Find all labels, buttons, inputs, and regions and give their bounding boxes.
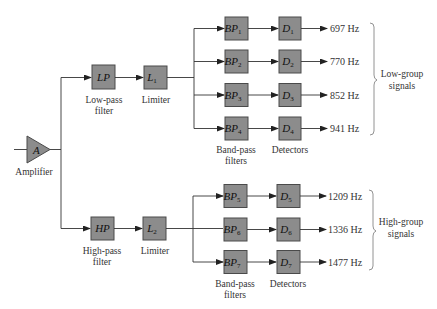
limiter-1-label: Limiter [142,95,171,105]
low-pass-symbol: LP [96,71,110,83]
low-group-label: Low-group [381,69,424,79]
low-group-label-2: signals [389,81,416,91]
detectors-label-low: Detectors [272,145,309,155]
freq-697: 697 Hz [330,23,360,34]
channel-7: BP7 D7 1477 Hz [193,251,363,274]
bandpass-label-high: Band-pass [215,279,255,289]
amplifier-label: Amplifier [15,167,53,177]
channel-6: BP6 D6 1336 Hz [224,218,363,241]
low-pass-label: Low-pass [86,95,123,105]
channel-4: BP4 D4 941 Hz [194,117,360,140]
bandpass-label-low-2: filters [225,156,247,166]
amplifier-block: A Amplifier [14,78,61,229]
high-pass-label: High-pass [83,246,122,256]
freq-770: 770 Hz [330,56,360,67]
freq-1209: 1209 Hz [328,191,363,202]
channel-1: BP1 D1 697 Hz [194,17,360,40]
bandpass-label-high-2: filters [224,290,246,300]
amplifier-symbol: A [32,144,40,156]
detectors-label-high: Detectors [270,279,307,289]
high-pass-label-2: filter [93,257,112,267]
freq-1336: 1336 Hz [328,224,363,235]
channel-5: BP5 D5 1209 Hz [193,185,363,208]
low-group-brace-icon [370,23,377,135]
bandpass-label-low: Band-pass [216,145,256,155]
channel-3: BP3 D3 852 Hz [194,84,360,107]
freq-941: 941 Hz [330,123,360,134]
high-group-label: High-group [379,217,424,227]
high-group-label-2: signals [388,229,415,239]
high-path: HP High-pass filter L2 Limiter BP5 D5 12… [61,185,423,301]
high-group-brace-icon [369,190,376,270]
freq-1477: 1477 Hz [328,257,363,268]
high-pass-symbol: HP [94,222,110,234]
freq-852: 852 Hz [330,90,360,101]
channel-2: BP2 D2 770 Hz [194,50,360,73]
limiter-2-label: Limiter [141,246,170,256]
low-path: LP Low-pass filter L1 Limiter BP1 D1 697… [61,17,424,166]
dtmf-receiver-diagram: A Amplifier LP Low-pass filter L1 Limite… [0,0,437,309]
low-pass-label-2: filter [95,106,114,116]
